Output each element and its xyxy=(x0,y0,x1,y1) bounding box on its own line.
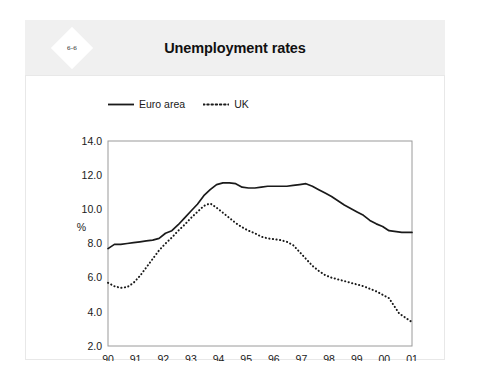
y-tick-label: 12.0 xyxy=(82,169,103,181)
x-tick-label: 00 xyxy=(379,353,391,361)
y-tick-label: 10.0 xyxy=(82,203,103,215)
chart-plot: 14.012.010.08.06.04.02.0 909192939495969… xyxy=(26,76,446,361)
y-tick-label: 4.0 xyxy=(87,306,102,318)
y-axis-unit-label: % xyxy=(77,221,86,233)
x-tick-label: 96 xyxy=(268,353,280,361)
x-tick-label: 01 xyxy=(406,353,418,361)
y-axis-tick-labels: 14.012.010.08.06.04.02.0 xyxy=(82,135,103,352)
x-tick-label: 95 xyxy=(240,353,252,361)
x-tick-label: 93 xyxy=(185,353,197,361)
x-axis-tick-labels: 909192939495969798990001 xyxy=(102,353,418,361)
y-tick-label: 6.0 xyxy=(87,271,102,283)
x-tick-label: 97 xyxy=(296,353,308,361)
series-line-uk xyxy=(108,203,412,322)
x-tick-label: 99 xyxy=(351,353,363,361)
chart-panel: Euro area UK 14.012.010.08.06.04.02.0 90… xyxy=(25,75,445,360)
x-tick-label: 94 xyxy=(213,353,225,361)
figure-number-label: 6-6 xyxy=(67,44,77,52)
chart-series-layer xyxy=(108,183,412,322)
y-tick-label: 2.0 xyxy=(87,340,102,352)
x-tick-label: 98 xyxy=(323,353,335,361)
y-tick-label: 8.0 xyxy=(87,237,102,249)
x-tick-label: 92 xyxy=(157,353,169,361)
y-tick-label: 14.0 xyxy=(82,135,103,147)
figure-header-band: Unemployment rates 6-6 xyxy=(25,20,445,75)
series-line-euro-area xyxy=(108,183,412,249)
figure-card: Unemployment rates 6-6 Euro area UK xyxy=(25,20,445,360)
screenshot-root: Unemployment rates 6-6 Euro area UK xyxy=(0,0,480,379)
x-tick-label: 91 xyxy=(130,353,142,361)
plot-frame xyxy=(108,141,412,346)
x-tick-label: 90 xyxy=(102,353,114,361)
